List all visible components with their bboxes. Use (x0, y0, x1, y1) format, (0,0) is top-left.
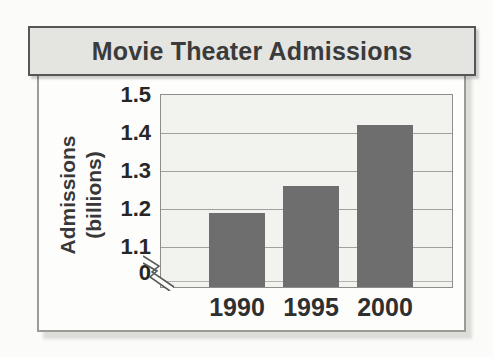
bar-1990 (209, 213, 265, 287)
x-tick-label-2000: 2000 (345, 294, 425, 320)
axis-break-icon (143, 253, 177, 291)
x-tick-label-1995: 1995 (271, 294, 351, 320)
chart-title-bar: Movie Theater Admissions (28, 26, 476, 76)
bar-2000 (357, 125, 413, 287)
bar-1995 (283, 186, 339, 287)
y-tick-label-1.2: 1.2 (93, 197, 151, 221)
chart-title: Movie Theater Admissions (92, 37, 413, 66)
plot-area (160, 94, 453, 288)
y-tick-label-1.4: 1.4 (93, 121, 151, 145)
chart-figure: Movie Theater Admissions Admissions (bil… (0, 0, 493, 357)
y-tick-label-1.5: 1.5 (93, 83, 151, 107)
y-tick-label-1.3: 1.3 (93, 159, 151, 183)
x-tick-label-1990: 1990 (197, 294, 277, 320)
